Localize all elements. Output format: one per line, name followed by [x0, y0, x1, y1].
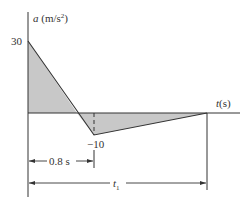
arrow-right-icon [87, 159, 93, 163]
dim-0-8-label: 0.8 s [49, 155, 70, 167]
t-axis-label: t(s) [216, 97, 231, 110]
dim-t1-label: t1 [113, 177, 120, 192]
a-axis-label: a (m/s2) [33, 12, 68, 25]
arrow-left-icon [29, 159, 35, 163]
y-tick-minus-10: −10 [87, 138, 105, 150]
arrow-left-icon [29, 181, 35, 185]
a-t-diagram: a (m/s2) 30 −10 t(s) 0.8 s t1 [0, 0, 248, 202]
arrow-right-icon [200, 181, 206, 185]
y-tick-30: 30 [11, 35, 23, 47]
